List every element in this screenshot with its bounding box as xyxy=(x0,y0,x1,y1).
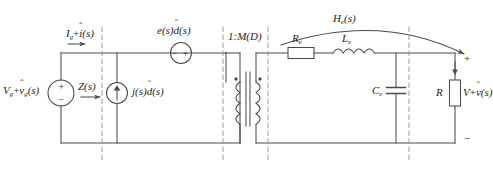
transfer-tail: (s) xyxy=(344,12,356,24)
duty-voltage-source-label: e(s)ˆd(s) xyxy=(157,25,191,36)
esource-minus-sign: − xyxy=(172,49,177,58)
transformer-ratio-label: 1:M(D) xyxy=(228,31,262,42)
load-resistor-label: R xyxy=(436,87,443,98)
ce-sub: e xyxy=(379,90,382,97)
output-plus-terminal: + xyxy=(464,53,470,64)
output-tail: (s) xyxy=(481,86,493,98)
inductor-le-label: Le xyxy=(342,33,351,46)
inductor-le-symbol xyxy=(333,49,375,53)
input-source-label: Vg+ˆvg(s) xyxy=(3,85,39,98)
duty-current-source-label: j(s)ˆd(s) xyxy=(132,86,164,97)
hat-accent-icon: ˆ xyxy=(20,80,23,89)
output-minus-terminal: − xyxy=(464,133,470,144)
re-sub: e xyxy=(299,38,302,45)
re-base: R xyxy=(292,32,299,44)
input-current-tail: (s) xyxy=(82,27,94,39)
ideal-transformer-symbol xyxy=(226,53,262,143)
hat-accent-icon: ˆ xyxy=(148,81,151,90)
output-voltage-label: V+ˆv(s) xyxy=(463,87,492,98)
voltage-source-plus-sign: + xyxy=(59,82,65,92)
input-impedance-label: Z(s) xyxy=(78,81,96,92)
output-base: V xyxy=(463,86,470,98)
output-current-arrow xyxy=(452,62,458,75)
input-source-base: V xyxy=(3,84,10,96)
voltage-source-tail: (s) xyxy=(179,24,191,36)
input-source-tail: (s) xyxy=(28,84,40,96)
current-source-tail: (s) xyxy=(152,85,164,97)
capacitor-ce-symbol xyxy=(387,53,406,143)
capacitor-ce-label: Ce xyxy=(372,85,382,98)
circuit-schematic-svg xyxy=(0,0,493,170)
input-current-label: Ig+ˆi(s) xyxy=(66,28,94,41)
current-source-head: j(s) xyxy=(132,85,147,97)
circuit-diagram-canvas: Vg+ˆvg(s) + − Ig+ˆi(s) Z(s) j(s)ˆd(s) e(… xyxy=(0,0,493,170)
transfer-base: H xyxy=(333,12,341,24)
le-sub: e xyxy=(348,38,351,45)
transfer-function-label: He(s) xyxy=(333,13,356,26)
resistor-re-symbol xyxy=(288,48,314,59)
esource-plus-sign: + xyxy=(183,49,188,58)
hat-accent-icon: ˆ xyxy=(477,82,480,91)
hat-accent-icon: ˆ xyxy=(79,23,82,32)
voltage-source-head: e(s) xyxy=(157,24,174,36)
hat-accent-icon: ˆ xyxy=(175,20,178,29)
current-source-arrow xyxy=(114,85,121,100)
resistor-re-label: Re xyxy=(292,33,302,46)
voltage-source-minus-sign: − xyxy=(59,95,65,105)
